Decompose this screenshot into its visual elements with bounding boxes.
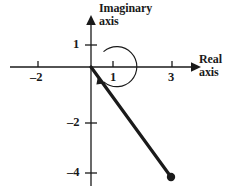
tick-label-real-3: 3: [168, 70, 174, 85]
imaginary-axis-label-line1: Imaginary: [99, 2, 152, 15]
complex-vector-line: [91, 67, 171, 177]
complex-vector: [91, 67, 175, 181]
complex-number-point: [167, 173, 175, 181]
tick-label-imag-1: 1: [73, 37, 79, 52]
imaginary-axis-arrowhead: [86, 15, 96, 25]
real-axis-ticks: [38, 61, 172, 67]
imaginary-axis: [86, 15, 96, 186]
real-axis-label: Real axis: [199, 53, 222, 79]
tick-label-real-neg2: –2: [30, 70, 43, 85]
tick-label-real-1: 1: [110, 70, 116, 85]
tick-label-imag-neg2: –2: [67, 115, 80, 130]
tick-label-imag-neg4: –4: [67, 165, 80, 180]
imaginary-axis-label: Imaginary axis: [99, 2, 152, 28]
imaginary-axis-label-line2: axis: [99, 15, 152, 28]
real-axis-label-line2: axis: [199, 66, 222, 79]
real-axis-label-line1: Real: [199, 53, 222, 66]
complex-plane-svg: [0, 0, 234, 192]
complex-plane-figure: Imaginary axis Real axis –2 1 3 1 –2 –4: [0, 0, 234, 192]
